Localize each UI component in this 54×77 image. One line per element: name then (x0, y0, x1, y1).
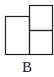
diagram-figure-b: B (0, 0, 54, 77)
figure-label: B (0, 59, 54, 75)
right-top-square (30, 6, 53, 31)
right-bottom-square (30, 31, 53, 55)
left-rectangle (6, 17, 30, 55)
